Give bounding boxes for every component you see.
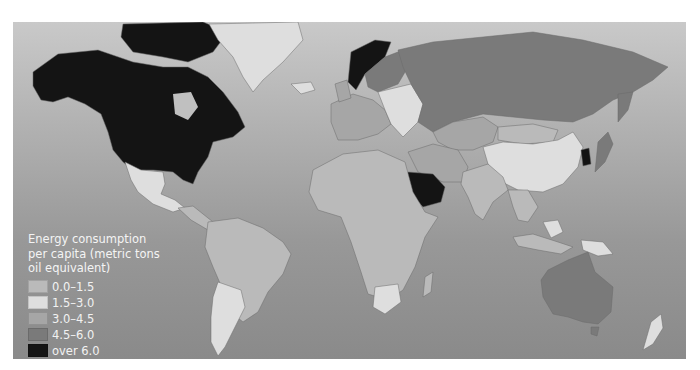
region-borneo	[543, 220, 563, 238]
legend-swatch	[28, 280, 48, 293]
legend-label: 3.0–4.5	[52, 312, 94, 326]
region-mongolia	[498, 124, 558, 144]
legend-title-line-2: per capita (metric tons	[28, 247, 208, 262]
region-greenland	[209, 22, 303, 92]
region-uk	[335, 80, 351, 102]
legend-item-4.5-6.0: 4.5–6.0	[28, 327, 208, 343]
region-australia	[541, 252, 613, 324]
region-southeast-asia	[508, 190, 538, 222]
legend-label: over 6.0	[52, 344, 100, 358]
legend-label: 0.0–1.5	[52, 280, 94, 294]
region-indonesia	[513, 234, 573, 254]
legend-label: 4.5–6.0	[52, 328, 94, 342]
legend-title-line-3: oil equivalent)	[28, 261, 208, 276]
region-japan	[595, 132, 613, 172]
legend-title: Energy consumption per capita (metric to…	[28, 232, 208, 276]
legend-title-line-1: Energy consumption	[28, 232, 208, 247]
legend-item-0-1.5: 0.0–1.5	[28, 279, 208, 295]
region-madagascar	[423, 272, 433, 297]
region-south-africa	[373, 284, 401, 314]
region-russia	[398, 32, 668, 132]
legend-swatch	[28, 344, 48, 357]
legend-swatch	[28, 328, 48, 341]
map-legend: Energy consumption per capita (metric to…	[28, 232, 208, 359]
region-new-zealand	[643, 314, 663, 350]
legend-swatch	[28, 296, 48, 309]
legend-swatch	[28, 312, 48, 325]
legend-item-over-6.0: over 6.0	[28, 343, 208, 359]
region-kamchatka	[618, 92, 633, 122]
region-korea	[581, 148, 591, 166]
legend-label: 1.5–3.0	[52, 296, 94, 310]
region-iceland	[291, 82, 315, 94]
region-tasmania	[591, 327, 599, 336]
legend-item-1.5-3.0: 1.5–3.0	[28, 295, 208, 311]
legend-item-3.0-4.5: 3.0–4.5	[28, 311, 208, 327]
world-map: Energy consumption per capita (metric to…	[13, 22, 686, 359]
region-north-america	[33, 50, 245, 184]
